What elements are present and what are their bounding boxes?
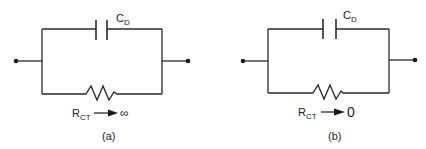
caption-b: (b) xyxy=(328,130,341,142)
circuit-figure: CD RCT ∞ (a) CD RCT 0 (b) xyxy=(0,0,426,149)
caption-a: (a) xyxy=(102,130,115,142)
circuit-b: CD RCT 0 (b) xyxy=(241,9,418,142)
right-terminal-b xyxy=(413,58,418,63)
limit-value-b: 0 xyxy=(347,104,355,120)
resistor-icon-b xyxy=(268,85,389,99)
capacitor-label-b: CD xyxy=(343,9,357,24)
arrow-right-icon-b xyxy=(334,109,345,116)
resistor-icon-a xyxy=(42,86,162,100)
circuit-a: CD RCT ∞ (a) xyxy=(14,12,191,142)
right-terminal-a xyxy=(186,59,191,64)
resistor-label-b: RCT xyxy=(298,106,317,121)
limit-value-a: ∞ xyxy=(120,106,129,120)
capacitor-label-a: CD xyxy=(116,12,130,27)
arrow-right-icon-a xyxy=(108,110,118,117)
resistor-label-a: RCT xyxy=(72,107,91,122)
